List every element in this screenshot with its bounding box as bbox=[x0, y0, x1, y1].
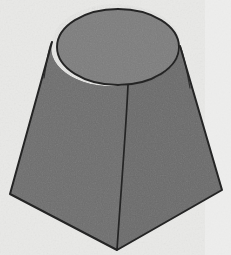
background-light-strip bbox=[205, 0, 231, 255]
figure-container: Shaded geometric solid A conical frustum… bbox=[0, 0, 231, 255]
geometric-solid-drawing bbox=[0, 0, 231, 255]
